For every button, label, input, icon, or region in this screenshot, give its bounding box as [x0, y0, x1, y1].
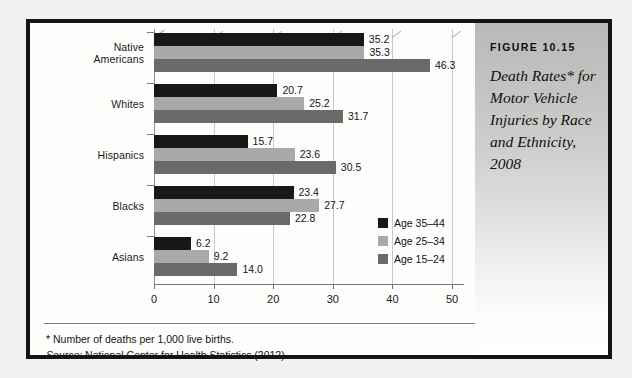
- legend-swatch-icon: [378, 254, 388, 264]
- gridline-cap-50: [452, 31, 461, 38]
- bar-value-label: 46.3: [435, 59, 455, 72]
- footnote-asterisk-note: * Number of deaths per 1,000 live births…: [46, 331, 506, 347]
- figure-title: Death Rates* for Motor Vehicle Injuries …: [490, 65, 598, 175]
- bar-value-label: 20.7: [282, 84, 302, 97]
- figure-number: FIGURE 10.15: [490, 41, 598, 53]
- category-label-native-americans: NativeAmericans: [52, 41, 144, 65]
- bar-value-label: 22.8: [295, 212, 315, 225]
- bar: [154, 161, 336, 174]
- x-tick-label-0: 0: [139, 293, 169, 305]
- footnote-divider: [44, 323, 514, 324]
- bar: [154, 135, 248, 148]
- category-label-whites: Whites: [52, 98, 144, 110]
- bar-value-label: 15.7: [253, 135, 273, 148]
- x-tick-label-20: 20: [258, 293, 288, 305]
- footnote-source-label: Source:: [46, 349, 82, 361]
- bar: [154, 186, 294, 199]
- x-tick-label-30: 30: [318, 293, 348, 305]
- bar-value-label: 9.2: [214, 250, 229, 263]
- gridline-cap-40: [392, 31, 401, 38]
- plot-wrapper: NativeAmericansWhitesHispanicsBlacksAsia…: [30, 29, 530, 314]
- caption-panel: FIGURE 10.15 Death Rates* for Motor Vehi…: [475, 23, 608, 355]
- y-tick: [147, 83, 154, 84]
- legend-label: Age 25–34: [394, 235, 445, 247]
- legend-swatch-icon: [378, 218, 388, 228]
- bar-value-label: 6.2: [196, 237, 211, 250]
- bar-value-label: 14.0: [242, 263, 262, 276]
- y-tick: [147, 236, 154, 237]
- category-label-asians: Asians: [52, 251, 144, 263]
- footnote-source: Source: National Center for Health Stati…: [46, 347, 506, 363]
- x-tick-label-50: 50: [437, 293, 467, 305]
- bar: [154, 46, 364, 59]
- bar-value-label: 25.2: [309, 97, 329, 110]
- figure-frame: NativeAmericansWhitesHispanicsBlacksAsia…: [26, 19, 612, 359]
- bar: [154, 97, 304, 110]
- footnote-block: * Number of deaths per 1,000 live births…: [46, 331, 506, 364]
- x-tick-label-10: 10: [199, 293, 229, 305]
- bar-value-label: 30.5: [341, 161, 361, 174]
- caption-inner: FIGURE 10.15 Death Rates* for Motor Vehi…: [490, 41, 598, 175]
- legend-label: Age 15–24: [394, 253, 445, 265]
- legend-label: Age 35–44: [394, 217, 445, 229]
- bar: [154, 33, 364, 46]
- figure-root: NativeAmericansWhitesHispanicsBlacksAsia…: [0, 0, 632, 378]
- category-label-line: Hispanics: [98, 149, 144, 161]
- bar: [154, 199, 319, 212]
- chart-area: NativeAmericansWhitesHispanicsBlacksAsia…: [30, 23, 530, 355]
- bar-value-label: 35.3: [369, 46, 389, 59]
- category-label-line: Native: [114, 41, 144, 53]
- legend-item: Age 35–44: [378, 215, 445, 230]
- chart-legend: Age 35–44Age 25–34Age 15–24: [378, 215, 445, 269]
- bar: [154, 250, 209, 263]
- bar: [154, 212, 290, 225]
- y-tick: [147, 185, 154, 186]
- x-tick-label-40: 40: [377, 293, 407, 305]
- bar: [154, 84, 277, 97]
- category-label-line: Whites: [111, 98, 144, 110]
- legend-item: Age 15–24: [378, 251, 445, 266]
- legend-swatch-icon: [378, 236, 388, 246]
- bar-value-label: 23.4: [299, 186, 319, 199]
- bar: [154, 237, 191, 250]
- category-label-line: Americans: [94, 53, 145, 65]
- bar-value-label: 31.7: [348, 110, 368, 123]
- bar: [154, 110, 343, 123]
- footnote-source-text: National Center for Health Statistics (2…: [82, 349, 287, 361]
- figure-body: NativeAmericansWhitesHispanicsBlacksAsia…: [30, 23, 608, 355]
- bar-value-label: 27.7: [324, 199, 344, 212]
- bar: [154, 263, 237, 276]
- bar-value-label: 35.2: [369, 33, 389, 46]
- bar: [154, 59, 430, 72]
- y-tick: [147, 134, 154, 135]
- category-label-line: Asians: [112, 251, 144, 263]
- bar: [154, 148, 295, 161]
- category-label-line: Blacks: [112, 200, 144, 212]
- category-label-blacks: Blacks: [52, 200, 144, 212]
- legend-item: Age 25–34: [378, 233, 445, 248]
- x-axis-line: [154, 284, 464, 285]
- category-label-hispanics: Hispanics: [52, 149, 144, 161]
- bar-value-label: 23.6: [300, 148, 320, 161]
- category-label-column: NativeAmericansWhitesHispanicsBlacksAsia…: [52, 29, 144, 314]
- y-tick: [147, 32, 154, 33]
